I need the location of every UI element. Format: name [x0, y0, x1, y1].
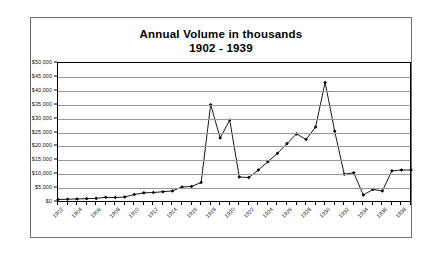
x-axis-tick	[57, 202, 58, 205]
data-point	[400, 168, 404, 172]
x-axis-tick	[171, 202, 172, 205]
chart-title-line2: 1902 - 1939	[31, 41, 411, 55]
x-axis-label: 1910	[128, 206, 141, 219]
x-axis-tick	[362, 202, 363, 205]
x-axis-tick	[276, 202, 277, 205]
data-point	[142, 191, 146, 195]
series-line	[58, 82, 411, 199]
x-axis-label: 1932	[337, 206, 350, 219]
data-point	[390, 169, 394, 173]
x-axis-tick	[305, 202, 306, 205]
gridline	[58, 77, 410, 78]
x-axis-tick	[95, 202, 96, 205]
y-axis-label: $5,000	[35, 184, 52, 190]
x-axis-tick	[372, 202, 373, 205]
x-axis-tick	[105, 202, 106, 205]
gridline	[58, 91, 410, 92]
x-axis-label: 1914	[166, 206, 179, 219]
data-point	[56, 198, 60, 202]
data-point	[104, 195, 108, 199]
x-axis-tick	[391, 202, 392, 205]
y-axis-label: $50,000	[32, 59, 52, 65]
x-axis-tick	[191, 202, 192, 205]
y-axis-label: $40,000	[32, 87, 52, 93]
gridline	[58, 119, 410, 120]
x-axis-tick	[286, 202, 287, 205]
gridline	[58, 133, 410, 134]
x-axis-tick	[248, 202, 249, 205]
x-axis-label: 1924	[261, 206, 274, 219]
data-point	[113, 196, 117, 200]
data-point	[85, 197, 89, 201]
x-axis-tick	[296, 202, 297, 205]
x-axis-tick	[114, 202, 115, 205]
y-axis: $50,000$45,000$40,000$35,000$30,000$25,0…	[0, 55, 55, 209]
series-markers	[56, 81, 413, 202]
x-axis-tick	[334, 202, 335, 205]
y-axis-label: $30,000	[32, 115, 52, 121]
x-axis: 1902190419061908191019121914191619181920…	[0, 202, 443, 247]
x-axis-label: 1920	[223, 206, 236, 219]
data-point	[199, 181, 203, 185]
x-axis-tick	[133, 202, 134, 205]
x-axis-tick	[76, 202, 77, 205]
x-axis-tick	[67, 202, 68, 205]
x-axis-tick	[353, 202, 354, 205]
data-point	[409, 168, 413, 172]
x-axis-label: 1930	[318, 206, 331, 219]
data-point	[161, 190, 165, 194]
x-axis-tick	[324, 202, 325, 205]
x-axis-label: 1918	[204, 206, 217, 219]
data-point	[66, 197, 70, 201]
data-point	[123, 195, 127, 199]
plot-area	[57, 62, 411, 202]
x-axis-tick	[219, 202, 220, 205]
x-axis-label: 1916	[185, 206, 198, 219]
x-axis-tick	[86, 202, 87, 205]
x-axis-label: 1904	[70, 206, 83, 219]
y-axis-label: $45,000	[32, 73, 52, 79]
x-axis-tick	[143, 202, 144, 205]
y-axis-label: $15,000	[32, 156, 52, 162]
x-axis-label: 1926	[280, 206, 293, 219]
data-point	[171, 189, 175, 193]
chart-title-line1: Annual Volume in thousands	[140, 28, 303, 40]
x-axis-tick	[124, 202, 125, 205]
x-axis-tick	[315, 202, 316, 205]
x-axis-tick	[343, 202, 344, 205]
gridline	[58, 160, 410, 161]
x-axis-tick	[181, 202, 182, 205]
data-point	[218, 136, 222, 140]
y-axis-label: $25,000	[32, 129, 52, 135]
data-point	[94, 197, 98, 201]
data-point	[237, 175, 241, 179]
data-point	[133, 193, 137, 197]
data-point	[152, 191, 156, 195]
x-axis-label: 1908	[108, 206, 121, 219]
x-axis-tick	[400, 202, 401, 205]
x-axis-label: 1922	[242, 206, 255, 219]
y-axis-label: $35,000	[32, 101, 52, 107]
gridline	[58, 146, 410, 147]
data-point	[323, 81, 327, 85]
x-axis-label: 1934	[357, 206, 370, 219]
x-axis-label: 1902	[51, 206, 64, 219]
y-axis-label: $10,000	[32, 170, 52, 176]
x-axis-tick	[381, 202, 382, 205]
x-axis-label: 1936	[376, 206, 389, 219]
gridline	[58, 105, 410, 106]
x-axis-label: 1938	[395, 206, 408, 219]
x-axis-label: 1906	[89, 206, 102, 219]
gridline	[58, 174, 410, 175]
x-axis-tick	[210, 202, 211, 205]
x-axis-tick	[238, 202, 239, 205]
x-axis-tick	[410, 202, 411, 205]
data-point	[381, 189, 385, 193]
x-axis-tick	[152, 202, 153, 205]
x-axis-tick	[200, 202, 201, 205]
x-axis-tick	[162, 202, 163, 205]
x-axis-tick	[267, 202, 268, 205]
data-point	[361, 193, 365, 197]
data-point	[75, 197, 79, 201]
x-axis-label: 1912	[147, 206, 160, 219]
